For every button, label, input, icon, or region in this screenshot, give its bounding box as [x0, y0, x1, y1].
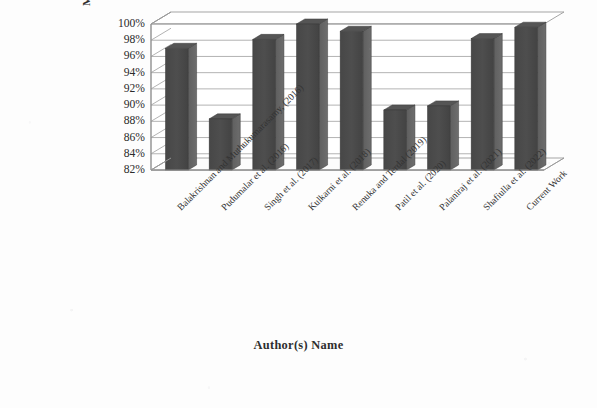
y-axis-tick-label: 92% [99, 83, 145, 95]
bar [165, 43, 196, 170]
bar-front-face [296, 24, 319, 170]
y-axis-tick-label: 100% [99, 18, 145, 30]
y-axis-tick-label: 94% [99, 67, 145, 79]
bar-side-face [319, 19, 327, 170]
y-axis-tick-label: 98% [99, 34, 145, 46]
chart-figure: Maximum Accuracy Obtained 82%84%86%88%90… [0, 0, 597, 408]
y-axis-tick-label: 88% [99, 115, 145, 127]
y-axis-tick-label: 82% [99, 164, 145, 176]
x-axis-title: Author(s) Name [0, 338, 597, 353]
bar-side-face [450, 101, 458, 170]
bar-front-face [515, 27, 538, 170]
y-axis-tick-label: 90% [99, 99, 145, 111]
y-axis-tick-label: 86% [99, 132, 145, 144]
bar-side-face [188, 43, 196, 170]
bar-front-face [165, 48, 188, 170]
y-axis-tick-labels: 82%84%86%88%90%92%94%96%98%100% [95, 12, 145, 182]
bar [296, 19, 327, 170]
y-axis-tick-label: 96% [99, 50, 145, 62]
y-axis-tick-label: 84% [99, 148, 145, 160]
